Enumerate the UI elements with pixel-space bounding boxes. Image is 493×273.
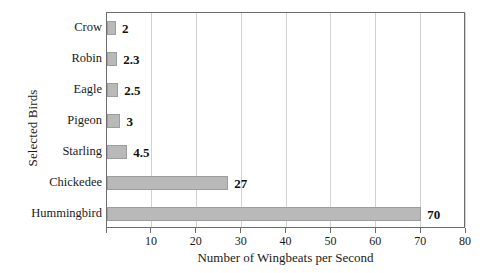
gridline <box>465 13 466 227</box>
category-label: Robin <box>24 52 102 65</box>
x-axis-tick-label: 60 <box>369 235 381 247</box>
gridline <box>241 13 242 227</box>
category-label: Chickedee <box>24 176 102 189</box>
x-axis-tick-label: 10 <box>145 235 157 247</box>
bar <box>107 176 228 190</box>
bar <box>107 52 117 66</box>
bar-value-label: 4.5 <box>133 146 149 159</box>
x-axis-tick <box>106 228 107 233</box>
x-axis-tick-label: 70 <box>414 235 426 247</box>
bar-value-label: 27 <box>234 177 247 190</box>
category-label: Crow <box>24 21 102 34</box>
gridline <box>330 13 331 227</box>
x-axis-tick-label: 30 <box>235 235 247 247</box>
category-label: Eagle <box>24 83 102 96</box>
x-axis-tick <box>195 228 196 233</box>
gridline <box>286 13 287 227</box>
x-axis-tick-label: 40 <box>280 235 292 247</box>
x-axis-tick <box>375 228 376 233</box>
x-axis-tick <box>240 228 241 233</box>
gridline <box>420 13 421 227</box>
x-axis-tick <box>465 228 466 233</box>
gridline <box>375 13 376 227</box>
plot-area: 22.32.534.52770 <box>106 12 465 228</box>
bar-value-label: 2.5 <box>124 84 140 97</box>
bar-value-label: 70 <box>427 208 440 221</box>
bar-value-label: 2 <box>122 22 129 35</box>
x-axis-tick-label: 80 <box>459 235 471 247</box>
x-axis-tick-label: 20 <box>190 235 202 247</box>
bar-value-label: 3 <box>126 115 133 128</box>
gridline <box>151 13 152 227</box>
x-axis-tick <box>285 228 286 233</box>
x-axis-title: Number of Wingbeats per Second <box>106 250 465 266</box>
bar <box>107 83 118 97</box>
x-axis-tick <box>150 228 151 233</box>
bar <box>107 145 127 159</box>
bar <box>107 21 116 35</box>
category-label: Starling <box>24 145 102 158</box>
x-axis-tick <box>420 228 421 233</box>
x-axis-tick-label: 50 <box>324 235 336 247</box>
bar <box>107 114 120 128</box>
bar <box>107 207 421 221</box>
category-label: Hummingbird <box>24 207 102 220</box>
bar-chart: Selected Birds CrowRobinEaglePigeonStarl… <box>0 0 493 273</box>
bar-value-label: 2.3 <box>123 53 139 66</box>
gridline <box>196 13 197 227</box>
category-label-column: CrowRobinEaglePigeonStarlingChickedeeHum… <box>24 12 102 228</box>
x-axis-tick <box>330 228 331 233</box>
category-label: Pigeon <box>24 114 102 127</box>
